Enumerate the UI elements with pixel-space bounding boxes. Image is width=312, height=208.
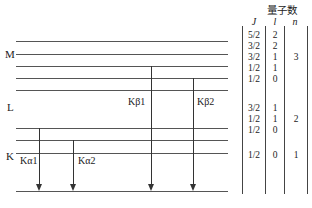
ka2-arrow-icon	[70, 184, 76, 191]
cell-l: 1	[266, 114, 284, 124]
header-l: l	[268, 16, 282, 27]
cell-l: 0	[266, 74, 284, 84]
level-m-1-2-s	[16, 90, 228, 91]
ka2-label: Kα2	[78, 155, 95, 166]
cell-l: 2	[266, 41, 284, 51]
cell-l: 0	[266, 125, 284, 135]
table-separator	[307, 26, 308, 194]
cell-l: 1	[266, 63, 284, 73]
shell-label-m: M	[5, 48, 15, 60]
kb1-line	[151, 66, 152, 186]
cell-n: 1	[285, 150, 307, 160]
level-m-5-2	[16, 41, 228, 42]
level-m-1-2-p	[16, 78, 228, 79]
level-l-1-2-s	[16, 153, 228, 154]
cell-j: 1/2	[243, 125, 265, 135]
ka2-line	[73, 140, 74, 186]
shell-label-l: L	[7, 101, 14, 113]
cell-l: 0	[266, 150, 284, 160]
level-l-3-2	[16, 128, 228, 129]
cell-j: 1/2	[243, 150, 265, 160]
level-k	[16, 191, 228, 192]
cell-j: 3/2	[243, 41, 265, 51]
cell-l: 1	[266, 52, 284, 62]
kb2-label: Kβ2	[197, 96, 214, 107]
cell-l: 1	[266, 103, 284, 113]
cell-n: 2	[285, 114, 307, 124]
ka1-line	[39, 128, 40, 186]
ka1-label: Kα1	[20, 155, 37, 166]
shell-label-k: K	[6, 150, 14, 162]
header-n: n	[286, 16, 304, 27]
ka1-arrow-icon	[36, 184, 42, 191]
kb2-line	[193, 78, 194, 186]
kb2-arrow-icon	[190, 184, 196, 191]
level-m-3-2-d	[16, 54, 228, 55]
header-j: J	[243, 16, 265, 27]
cell-j: 3/2	[243, 103, 265, 113]
cell-j: 3/2	[243, 52, 265, 62]
cell-j: 1/2	[243, 74, 265, 84]
cell-n: 3	[285, 52, 307, 62]
cell-j: 1/2	[243, 114, 265, 124]
cell-j: 5/2	[243, 30, 265, 40]
cell-j: 1/2	[243, 63, 265, 73]
kb1-label: Kβ1	[128, 96, 145, 107]
table-title: 量子数	[258, 2, 306, 17]
level-m-3-2-p	[16, 66, 228, 67]
level-l-1-2-p	[16, 140, 228, 141]
kb1-arrow-icon	[148, 184, 154, 191]
cell-l: 2	[266, 30, 284, 40]
